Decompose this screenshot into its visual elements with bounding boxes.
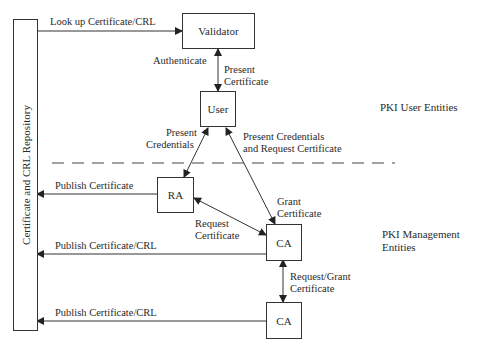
grant-label-1: Grant — [277, 196, 301, 208]
request-label-2: Certificate — [195, 230, 239, 242]
pki-user-entities-label: PKI User Entities — [380, 101, 458, 113]
present-req-label-2: and Request Certificate — [243, 143, 342, 155]
ca-box-2: CA — [266, 302, 302, 339]
validator-box: Validator — [182, 13, 255, 49]
ca-label-1: CA — [276, 237, 291, 249]
present-cert-label-1: Present — [224, 64, 255, 76]
ca-box-1: CA — [266, 224, 302, 261]
ca-label-2: CA — [276, 315, 291, 327]
present-cred-label-2: Credentials — [146, 139, 194, 151]
validator-label: Validator — [198, 25, 238, 37]
authenticate-label: Authenticate — [153, 55, 207, 67]
grant-label-2: Certificate — [277, 208, 321, 220]
publish-crl-label-1: Publish Certificate/CRL — [55, 240, 157, 252]
ra-box: RA — [157, 177, 194, 213]
present-cert-label-2: Certificate — [224, 76, 268, 88]
publish-cert-label: Publish Certificate — [55, 180, 133, 192]
pki-management-label-2: Entities — [382, 241, 416, 253]
publish-crl-label-2: Publish Certificate/CRL — [55, 307, 157, 319]
ra-label: RA — [168, 189, 183, 201]
repository-box: Certificate and CRL Repository — [13, 19, 38, 331]
present-cred-label-1: Present — [166, 127, 197, 139]
repository-label: Certificate and CRL Repository — [20, 105, 32, 245]
pki-management-label-1: PKI Management — [382, 228, 460, 240]
present-req-label-1: Present Credentials — [243, 131, 324, 143]
user-label: User — [208, 103, 229, 115]
user-box: User — [200, 91, 236, 127]
request-label-1: Request — [195, 218, 229, 230]
reqgrant-label-2: Certificate — [290, 283, 334, 295]
lookup-label: Look up Certificate/CRL — [50, 16, 156, 28]
connector-lines — [0, 0, 480, 352]
reqgrant-label-1: Request/Grant — [290, 271, 351, 283]
